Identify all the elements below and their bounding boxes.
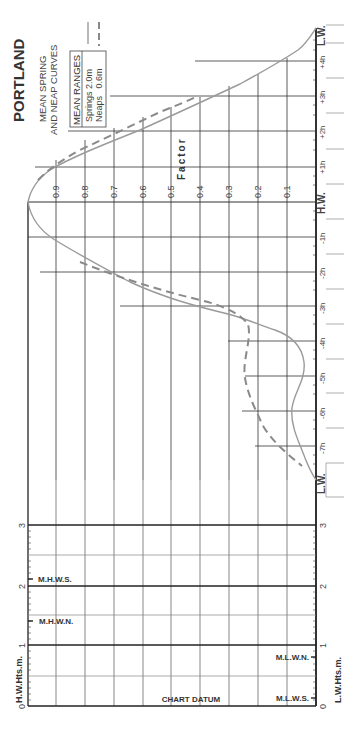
hour-minus1: -1h (318, 232, 327, 244)
factor-label: Factor (176, 137, 187, 180)
factor-tick: 0.4 (195, 185, 205, 198)
factor-tick: 0.5 (166, 185, 176, 198)
hw-height-tick: 3 (17, 523, 27, 528)
factor-tick: 0.9 (51, 185, 61, 198)
factor-tick: 0.8 (80, 185, 90, 198)
mlwn-label: M.L.W.N. (276, 653, 309, 662)
hw-height-tick: 1 (17, 643, 27, 648)
lw-heights-axis-label: L.W.Hts.m. (333, 657, 343, 703)
subtitle-line1: MEAN SPRING (37, 55, 48, 122)
lw-height-tick: 3 (318, 523, 328, 528)
hw-height-tick: 2 (17, 584, 27, 589)
lw-height-tick: 2 (318, 584, 328, 589)
legend-header: MEAN RANGES (71, 55, 82, 125)
height-minor-ticks (28, 531, 316, 700)
mlws-label: M.L.W.S. (276, 694, 309, 703)
lw-after-label: L.W. (316, 25, 327, 46)
time-axis-labels: L.W. +4h +3h +2h +1h H.W. -1h -2h -3h -4… (316, 25, 327, 494)
legend-neaps: Neaps 0.6m (94, 68, 104, 122)
height-major-lines (28, 525, 316, 706)
hour-minus4: -4h (318, 337, 327, 349)
hour-minus7: -7h (318, 442, 327, 454)
subtitle-line2: AND NEAP CURVES (48, 45, 59, 135)
height-grid (28, 480, 316, 706)
factor-tick: 0.1 (282, 185, 292, 198)
factor-tick: 0.7 (109, 185, 119, 198)
chart-datum-label: CHART DATUM (162, 695, 221, 704)
factor-tick: 0.6 (138, 185, 148, 198)
hour-plus1: +1h (318, 160, 327, 174)
hw-label: H.W. (316, 192, 327, 214)
hour-plus2: +2h (318, 125, 327, 139)
hour-minus6: -6h (318, 407, 327, 419)
lw-height-tick: 1 (318, 643, 328, 648)
hw-height-tick: 0 (17, 704, 27, 709)
mhwn-label: M.H.W.N. (39, 617, 73, 626)
legend: MEAN RANGES Springs 2.0m Neaps 0.6m (70, 22, 106, 127)
time-axis-ext-lines (326, 25, 344, 497)
hour-plus4: +4h (318, 55, 327, 69)
factor-tick: 0.3 (224, 185, 234, 198)
lw-height-tick: 0 (318, 704, 328, 709)
station-title: PORTLAND (10, 39, 27, 122)
factor-tick: 0.2 (253, 185, 263, 198)
mhws-label: M.H.W.S. (38, 575, 72, 584)
hour-plus3: +3h (318, 90, 327, 104)
hour-minus5: -5h (318, 372, 327, 384)
hour-minus3: -3h (318, 302, 327, 314)
factor-grid (28, 28, 316, 706)
hour-minus2: -2h (318, 267, 327, 279)
legend-springs: Springs 2.0m (84, 69, 94, 122)
factor-tick-labels: 0.9 0.8 0.7 0.6 0.5 0.4 0.3 0.2 0.1 (51, 185, 292, 198)
tidal-curve-diagram: 0.9 0.8 0.7 0.6 0.5 0.4 0.3 0.2 0.1 Fact… (0, 0, 354, 729)
neaps-curve (38, 96, 302, 466)
hw-heights-axis-label: H.W.Hts.m. (14, 656, 24, 703)
lw-before-label: L.W. (316, 473, 327, 494)
height-tick-labels: 3 2 1 0 3 2 1 0 (17, 523, 328, 709)
